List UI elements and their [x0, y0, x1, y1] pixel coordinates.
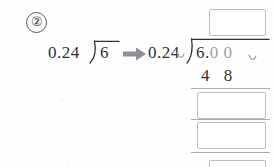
- converted-divisor: 0.24: [148, 43, 180, 63]
- answer-box-subtraction-step-1[interactable]: [197, 92, 266, 119]
- converted-dividend: 6.0 0: [196, 43, 233, 63]
- problem-number: ②: [26, 12, 47, 33]
- scan-artifact: [23, 148, 25, 150]
- original-dividend: 6: [100, 43, 109, 63]
- right-arrow-icon: [123, 47, 147, 61]
- answer-box-subtraction-step-3[interactable]: [209, 160, 266, 167]
- division-rule: [191, 152, 270, 153]
- scan-artifact: [66, 161, 68, 163]
- original-divisor: 0.24: [48, 43, 80, 63]
- answer-box-quotient[interactable]: [209, 9, 266, 36]
- worksheet-page: ② 0.24 6 0.24 6.0 0 4 8: [0, 0, 273, 167]
- answer-box-subtraction-step-2[interactable]: [197, 122, 266, 149]
- division-rule: [191, 88, 270, 89]
- decimal-shift-caret-icon: [248, 54, 260, 65]
- scan-artifact: [61, 99, 63, 101]
- division-rule: [191, 119, 270, 120]
- dividend-whole-part: 6.: [196, 43, 210, 62]
- partial-product-row: 4 8: [201, 66, 237, 86]
- dividend-appended-zeros: 0 0: [210, 43, 233, 62]
